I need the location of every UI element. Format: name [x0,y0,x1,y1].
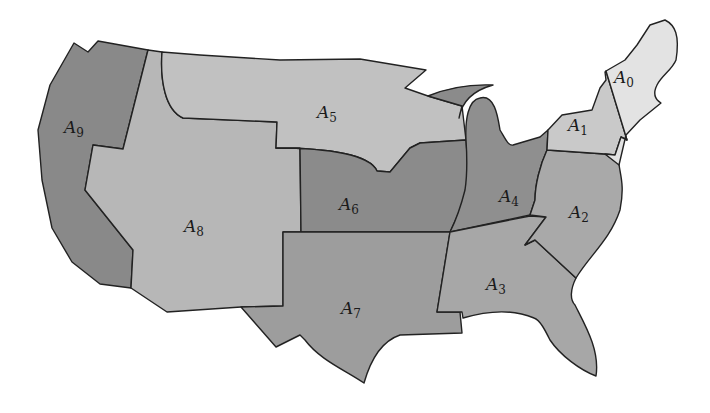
region-map: A0 A1 A2 A3 A4 A5 A6 A7 A8 A9 [0,0,710,413]
